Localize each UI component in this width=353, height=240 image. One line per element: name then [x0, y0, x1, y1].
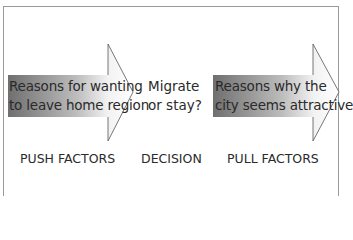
label-pull-factors: PULL FACTORS: [227, 151, 319, 167]
label-decision: DECISION: [141, 151, 202, 167]
pull-arrow-line-1: Reasons why the: [215, 77, 327, 96]
decision-line-2: or stay?: [148, 96, 202, 115]
push-arrow-line-2: to leave home region: [9, 96, 149, 115]
label-push-factors: PUSH FACTORS: [20, 151, 115, 167]
pull-arrow-line-2: city seems attractive: [215, 96, 353, 115]
decision-line-1: Migrate: [148, 77, 199, 96]
push-arrow-line-1: Reasons for wanting: [9, 77, 143, 96]
